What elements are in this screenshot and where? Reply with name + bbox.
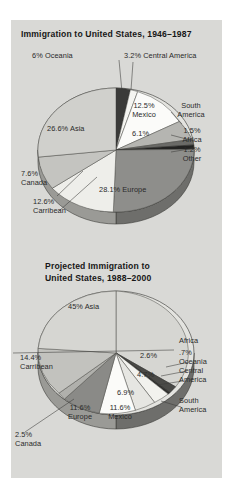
chart-immigration-1946-1987: Immigration to United States, 1946–1987 [11,20,222,249]
label-south-america-pct-2: 6.9% [117,389,134,398]
label-canada-2: 2.5% Canada [15,431,41,448]
chart-projected-immigration-1988-2000: Projected Immigration to United States, … [11,249,222,478]
label-mexico-2: 11.6% Mexico [99,404,141,421]
label-central-america-1: 3.2% Central America [124,52,196,61]
label-south-america-2: South America [179,397,206,414]
label-africa-pct-2: 2.6% [140,352,157,361]
label-oceania-1: 6% Oceania [32,52,73,61]
label-south-america-pct-1: 6.1% [132,130,149,139]
label-central-america-2: Central America [179,367,206,384]
label-other-1: 1.2% Other [169,146,215,163]
label-africa-2: Africa [179,337,198,346]
label-asia-1: 26.6% Asia [47,125,84,134]
label-africa-1: 1.5% Africa [169,127,215,144]
label-caribbean-1: 12.6% Carribean [33,198,66,215]
pie-chart-1988-2000: 45% Asia Africa 2.6% .7% Oceania 4.7% Ce… [11,249,222,478]
label-oceania-2: .7% Oceania [179,349,207,366]
label-europe-1: 28.1% Europe [99,186,146,195]
label-asia-2: 45% Asia [68,303,99,312]
label-canada-1: 7.6% Canada [21,170,47,187]
label-mexico-1: 12.5% Mexico [121,102,167,119]
label-europe-2: 11.6% Europe [59,404,101,421]
label-central-america-pct-2: 4.7% [137,371,154,380]
figure-panel: Immigration to United States, 1946–1987 [11,20,222,478]
pie-chart-1946-1987: 6% Oceania 3.2% Central America 12.5% Me… [11,20,222,249]
label-south-america-1: South America [168,102,214,119]
label-caribbean-2: 14.4% Carribean [20,354,53,371]
